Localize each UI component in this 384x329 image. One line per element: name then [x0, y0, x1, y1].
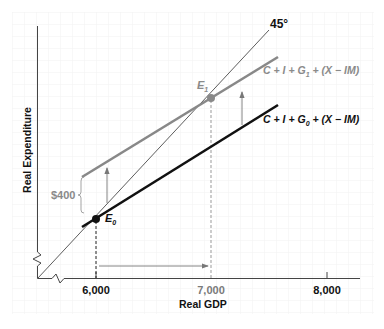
label-shift-amount: $400 — [51, 189, 75, 201]
point-e1 — [207, 94, 215, 102]
x-axis-title: Real GDP — [179, 298, 227, 310]
grid-background — [12, 12, 374, 314]
chart-canvas — [0, 0, 384, 329]
curve-g0-pre: C + — [263, 113, 283, 125]
label-e1-sub: 1 — [204, 86, 208, 93]
tick-label-7000: 7,000 — [197, 284, 225, 296]
label-e1: E1 — [197, 79, 208, 93]
label-45-degree: 45° — [270, 17, 288, 31]
y-axis-title: Real Expenditure — [21, 107, 33, 193]
label-e0: E0 — [105, 212, 116, 226]
curve-g1-post: + (X − IM) — [310, 64, 360, 76]
curve-g0-post: + (X − IM) — [310, 113, 360, 125]
curve-g1-mid: + G — [285, 64, 305, 76]
point-e0 — [92, 215, 100, 223]
curve-g1-pre: C + — [263, 64, 283, 76]
label-curve-g1: C + I + G1 + (X − IM) — [263, 64, 359, 78]
label-curve-g0: C + I + G0 + (X − IM) — [263, 113, 359, 127]
tick-label-8000: 8,000 — [313, 284, 341, 296]
label-e0-sub: 0 — [112, 219, 116, 226]
curve-g0-mid: + G — [285, 113, 305, 125]
tick-label-6000: 6,000 — [82, 284, 110, 296]
